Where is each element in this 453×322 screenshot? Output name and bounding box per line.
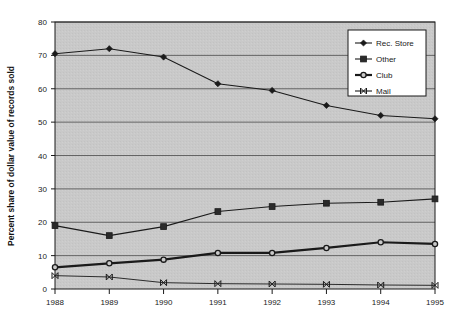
line-chart: 01020304050607080 1988198919901991199219… xyxy=(0,0,453,322)
y-tick-label: 50 xyxy=(38,118,47,127)
data-point-marker xyxy=(324,245,329,250)
y-tick-label: 30 xyxy=(38,185,47,194)
data-point-marker xyxy=(106,233,112,239)
y-axis-title: Percent share of dollar value of records… xyxy=(6,66,16,246)
x-tick-label: 1994 xyxy=(372,298,390,307)
legend-swatch-marker xyxy=(361,72,366,77)
data-point-marker xyxy=(215,209,221,215)
data-point-marker xyxy=(161,257,166,262)
data-point-marker xyxy=(52,265,57,270)
y-tick-label: 20 xyxy=(38,218,47,227)
data-point-marker xyxy=(52,223,58,229)
y-axis-tick-labels: 01020304050607080 xyxy=(38,18,47,294)
legend-label: Other xyxy=(376,55,396,64)
x-tick-label: 1993 xyxy=(318,298,336,307)
legend-swatch-marker xyxy=(361,56,367,62)
chart-legend[interactable]: Rec. StoreOtherClubMail xyxy=(348,30,426,96)
data-point-marker xyxy=(107,261,112,266)
y-tick-label: 80 xyxy=(38,18,47,27)
x-tick-label: 1989 xyxy=(100,298,118,307)
data-point-marker xyxy=(378,199,384,205)
data-point-marker xyxy=(215,250,220,255)
chart-container: 01020304050607080 1988198919901991199219… xyxy=(0,0,453,322)
legend-label: Mail xyxy=(376,87,391,96)
y-tick-label: 60 xyxy=(38,85,47,94)
x-tick-label: 1992 xyxy=(263,298,281,307)
legend-label: Club xyxy=(376,71,393,80)
data-point-marker xyxy=(270,250,275,255)
y-tick-label: 0 xyxy=(43,285,48,294)
data-point-marker xyxy=(161,224,167,230)
data-point-marker xyxy=(378,240,383,245)
x-tick-label: 1988 xyxy=(46,298,64,307)
x-tick-label: 1995 xyxy=(426,298,444,307)
x-tick-label: 1991 xyxy=(209,298,227,307)
y-tick-label: 40 xyxy=(38,152,47,161)
y-tick-label: 70 xyxy=(38,51,47,60)
x-tick-label: 1990 xyxy=(155,298,173,307)
data-point-marker xyxy=(269,204,275,210)
y-tick-label: 10 xyxy=(38,252,47,261)
data-point-marker xyxy=(432,241,437,246)
data-point-marker xyxy=(432,196,438,202)
data-point-marker xyxy=(324,200,330,206)
legend-label: Rec. Store xyxy=(376,39,414,48)
